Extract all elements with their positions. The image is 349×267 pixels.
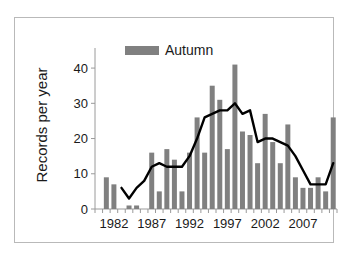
svg-text:2007: 2007 bbox=[289, 216, 318, 231]
svg-text:1997: 1997 bbox=[213, 216, 242, 231]
x-axis-ticks: 198219871992199720022007 bbox=[95, 209, 337, 231]
svg-text:20: 20 bbox=[74, 131, 88, 146]
svg-text:30: 30 bbox=[74, 96, 88, 111]
svg-text:0: 0 bbox=[81, 202, 88, 217]
chart-figure: Records per year 010203040 1982198719921… bbox=[0, 0, 349, 267]
plot-area: 010203040 198219871992199720022007 Autum… bbox=[73, 44, 341, 239]
y-axis-title: Records per year bbox=[31, 35, 53, 215]
svg-text:1987: 1987 bbox=[137, 216, 166, 231]
y-axis-ticks: 010203040 bbox=[74, 61, 95, 217]
svg-text:40: 40 bbox=[74, 61, 88, 76]
axis-lines bbox=[95, 48, 337, 209]
chart-frame: Records per year 010203040 1982198719921… bbox=[14, 17, 334, 243]
svg-text:2002: 2002 bbox=[251, 216, 280, 231]
chart-legend: Autumn bbox=[125, 44, 213, 58]
svg-text:Autumn: Autumn bbox=[165, 44, 213, 58]
svg-text:10: 10 bbox=[74, 166, 88, 181]
svg-text:1982: 1982 bbox=[99, 216, 128, 231]
chart-svg: 010203040 198219871992199720022007 Autum… bbox=[73, 44, 341, 239]
svg-text:1992: 1992 bbox=[175, 216, 204, 231]
